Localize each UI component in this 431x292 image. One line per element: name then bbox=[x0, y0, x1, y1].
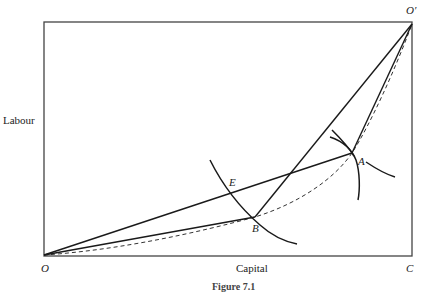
edgeworth-box-frame bbox=[44, 22, 412, 256]
point-label-o: O bbox=[41, 262, 49, 274]
contract-curve bbox=[44, 24, 412, 255]
x-axis-label: Capital bbox=[236, 262, 268, 274]
ray-o-to-a bbox=[44, 153, 352, 255]
figure-caption: Figure 7.1 bbox=[212, 281, 255, 292]
point-label-e: E bbox=[229, 176, 236, 188]
point-label-b: B bbox=[252, 222, 259, 234]
point-label-c: C bbox=[406, 262, 413, 274]
isoquant-o-through-a-tail bbox=[366, 162, 395, 177]
ray-oprime-to-a bbox=[352, 24, 412, 153]
ray-o-to-b bbox=[44, 217, 255, 255]
point-label-a: A bbox=[358, 155, 365, 167]
point-label-o-prime: O′ bbox=[406, 4, 416, 16]
ray-oprime-to-b bbox=[255, 24, 412, 217]
y-axis-label: Labour bbox=[3, 114, 35, 126]
